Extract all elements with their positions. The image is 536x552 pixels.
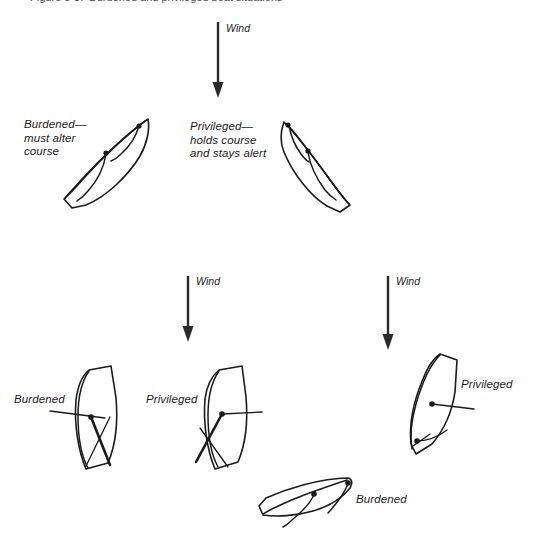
boat-mid-left-burdened: [50, 366, 117, 469]
wind-label-right: Wind: [396, 275, 420, 287]
boat-mid-left-label: Burdened: [14, 393, 65, 407]
boat-right-privileged: [411, 354, 474, 454]
boat-top-left-label: Burdened—must altercourse: [24, 118, 86, 159]
wind-arrow-right: [383, 276, 394, 350]
boat-bottom-burdened-label: Burdened: [356, 493, 407, 507]
diagram-canvas: [0, 0, 536, 552]
sailing-right-of-way-diagram: Figure 5-3. Burdened and privileged boat…: [0, 0, 536, 552]
boat-top-right-privileged: [281, 122, 350, 212]
wind-label-middle: Wind: [196, 275, 220, 287]
wind-arrow-middle: [183, 276, 194, 342]
wind-label-top: Wind: [226, 22, 250, 34]
wind-arrow-top: [213, 22, 224, 98]
boat-bottom-burdened: [259, 478, 352, 527]
boat-right-privileged-label: Privileged: [461, 378, 513, 392]
boat-top-right-label: Privileged—holds courseand stays alert: [190, 120, 266, 161]
boat-mid-center-label: Privileged: [146, 393, 198, 407]
boat-mid-center-privileged: [196, 366, 262, 469]
